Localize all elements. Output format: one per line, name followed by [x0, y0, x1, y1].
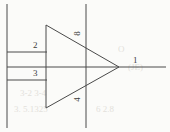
opamp-schematic-figure: O (JE) 3-2 3-4 3. 5.1325 6 2.8 2 3 1 8 4 [0, 0, 170, 132]
schematic-drawing [0, 0, 170, 132]
pin-label-8: 8 [73, 31, 82, 36]
pin-label-1: 1 [133, 56, 138, 65]
pin-label-2: 2 [33, 41, 38, 50]
pin-label-3: 3 [33, 69, 38, 78]
pin-label-4: 4 [73, 97, 82, 102]
